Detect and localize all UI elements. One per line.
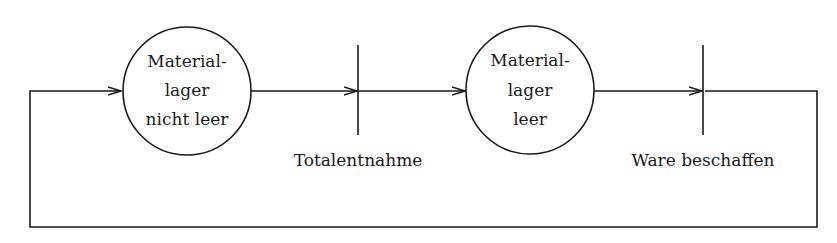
place-2-line-2: lager [508, 80, 554, 100]
place-1-line-1: Material- [147, 51, 226, 71]
place-1-line-3: nicht leer [146, 109, 230, 129]
place-2-line-3: leer [513, 109, 548, 129]
place-material-empty: Material- lager leer [466, 26, 594, 154]
place-2-line-1: Material- [490, 50, 569, 70]
transition-ware-beschaffen: Ware beschaffen [631, 45, 774, 170]
place-material-not-empty: Material- lager nicht leer [123, 27, 251, 155]
petri-net-diagram: Material- lager nicht leer Totalentnahme… [0, 0, 837, 243]
transition-2-label: Ware beschaffen [631, 150, 774, 170]
place-1-line-2: lager [165, 80, 211, 100]
transition-totalentnahme: Totalentnahme [294, 45, 423, 170]
transition-1-label: Totalentnahme [294, 150, 423, 170]
